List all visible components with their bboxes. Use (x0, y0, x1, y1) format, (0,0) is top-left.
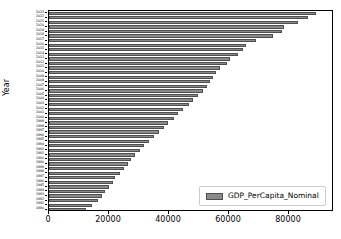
bar-1994[interactable] (49, 144, 144, 147)
bar-row (49, 62, 332, 65)
y-tick-mark (45, 195, 47, 196)
bar-1985[interactable] (49, 185, 109, 188)
bar-row (49, 85, 332, 88)
x-tick-label-0: 0 (45, 215, 50, 224)
bar-2001[interactable] (49, 112, 178, 115)
plot-area (48, 10, 333, 211)
bar-row (49, 66, 332, 69)
bar-1987[interactable] (49, 176, 115, 179)
y-tick-mark (45, 12, 47, 13)
bar-1981[interactable] (49, 204, 92, 207)
y-tick-mark (45, 99, 47, 100)
bar-2008[interactable] (49, 80, 210, 83)
y-tick-mark (45, 72, 47, 73)
bar-1982[interactable] (49, 199, 98, 202)
bar-2019[interactable] (49, 30, 282, 33)
bar-2020[interactable] (49, 25, 284, 28)
bar-1988[interactable] (49, 172, 120, 175)
bar-row (49, 76, 332, 79)
y-axis-tick-labels: 2023202220212020201920182017201620152014… (0, 10, 47, 211)
y-tick-mark (45, 81, 47, 82)
bar-1991[interactable] (49, 158, 131, 161)
bar-2018[interactable] (49, 34, 273, 37)
bar-row (49, 53, 332, 56)
bar-2014[interactable] (49, 53, 238, 56)
bar-row (49, 172, 332, 175)
bar-row (49, 80, 332, 83)
y-tick-label-2010: 2010 (36, 70, 44, 73)
y-tick-mark (45, 113, 47, 114)
bar-2017[interactable] (49, 39, 256, 42)
y-tick-mark (45, 21, 47, 22)
y-tick-mark (45, 31, 47, 32)
y-tick-mark (45, 140, 47, 141)
bar-1997[interactable] (49, 130, 159, 133)
bar-row (49, 144, 332, 147)
chart-figure: Year 20232022202120202019201820172016201… (0, 0, 341, 239)
bar-2022[interactable] (49, 16, 308, 19)
y-tick-mark (45, 67, 47, 68)
bar-2002[interactable] (49, 108, 183, 111)
bar-2011[interactable] (49, 66, 220, 69)
bar-1990[interactable] (49, 162, 128, 165)
bar-1995[interactable] (49, 140, 149, 143)
y-tick-mark (45, 136, 47, 137)
bar-row (49, 176, 332, 179)
bar-row (49, 108, 332, 111)
bar-row (49, 94, 332, 97)
y-tick-label-2003: 2003 (36, 102, 44, 105)
bar-2003[interactable] (49, 103, 189, 106)
x-tick-label-80000: 80000 (275, 215, 300, 224)
y-tick-mark (45, 149, 47, 150)
bar-row (49, 30, 332, 33)
bar-1986[interactable] (49, 181, 113, 184)
bar-2010[interactable] (49, 71, 216, 74)
bar-1998[interactable] (49, 126, 164, 129)
bar-row (49, 44, 332, 47)
bar-2013[interactable] (49, 57, 230, 60)
y-tick-label-1992: 1992 (36, 152, 44, 155)
bar-2016[interactable] (49, 44, 246, 47)
bar-2009[interactable] (49, 76, 213, 79)
x-tick-mark (228, 211, 229, 214)
y-tick-mark (45, 177, 47, 178)
bar-row (49, 153, 332, 156)
bar-1993[interactable] (49, 149, 140, 152)
y-tick-mark (45, 49, 47, 50)
y-tick-mark (45, 158, 47, 159)
bar-1999[interactable] (49, 121, 168, 124)
bar-2015[interactable] (49, 48, 243, 51)
y-tick-mark (45, 104, 47, 105)
bar-2007[interactable] (49, 85, 207, 88)
bar-2005[interactable] (49, 94, 198, 97)
x-tick-mark (108, 211, 109, 214)
y-tick-label-2008: 2008 (36, 79, 44, 82)
bar-2012[interactable] (49, 62, 227, 65)
y-tick-mark (45, 200, 47, 201)
bar-row (49, 158, 332, 161)
y-tick-mark (45, 108, 47, 109)
bar-2023[interactable] (49, 12, 316, 15)
y-tick-mark (45, 53, 47, 54)
bar-1996[interactable] (49, 135, 154, 138)
bar-1992[interactable] (49, 153, 135, 156)
bar-2006[interactable] (49, 89, 203, 92)
x-tick-mark (168, 211, 169, 214)
bar-row (49, 34, 332, 37)
chart-legend[interactable]: GDP_PerCapita_Nominal (199, 186, 326, 206)
bar-2000[interactable] (49, 117, 174, 120)
bar-2021[interactable] (49, 21, 298, 24)
y-tick-mark (45, 44, 47, 45)
x-tick-label-60000: 60000 (215, 215, 240, 224)
bar-row (49, 117, 332, 120)
bar-1983[interactable] (49, 194, 102, 197)
y-tick-label-2017: 2017 (36, 38, 44, 41)
bar-1984[interactable] (49, 190, 105, 193)
y-tick-mark (45, 186, 47, 187)
bar-2004[interactable] (49, 98, 193, 101)
y-tick-mark (45, 35, 47, 36)
y-tick-mark (45, 40, 47, 41)
bar-row (49, 149, 332, 152)
bar-1989[interactable] (49, 167, 124, 170)
bar-row (49, 89, 332, 92)
